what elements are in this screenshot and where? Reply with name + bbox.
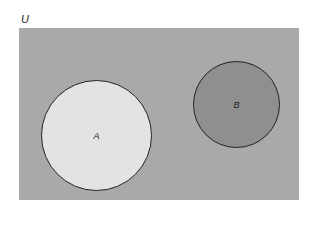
- set-a-circle: A: [41, 80, 152, 191]
- set-b-circle: B: [193, 61, 280, 148]
- set-a-label: A: [93, 131, 99, 141]
- set-b-label: B: [233, 100, 239, 110]
- universe-label: U: [21, 13, 29, 25]
- universal-set-rectangle: A B: [19, 28, 299, 200]
